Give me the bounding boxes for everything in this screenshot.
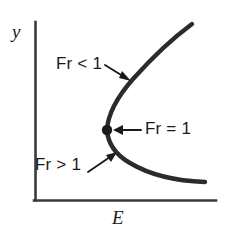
specific-energy-figure: y E Fr < 1 Fr = 1 Fr > 1 — [0, 0, 226, 240]
supercritical-annotation: Fr > 1 — [35, 156, 81, 173]
subcritical-arrow — [105, 65, 131, 81]
y-axis-label: y — [12, 22, 20, 41]
critical-annotation: Fr = 1 — [145, 120, 191, 137]
supercritical-arrow — [88, 152, 117, 172]
subcritical-annotation: Fr < 1 — [56, 55, 102, 72]
plot-canvas — [0, 0, 226, 240]
critical-point-dot — [102, 125, 112, 135]
critical-arrow — [113, 125, 141, 135]
x-axis-label: E — [112, 208, 124, 227]
